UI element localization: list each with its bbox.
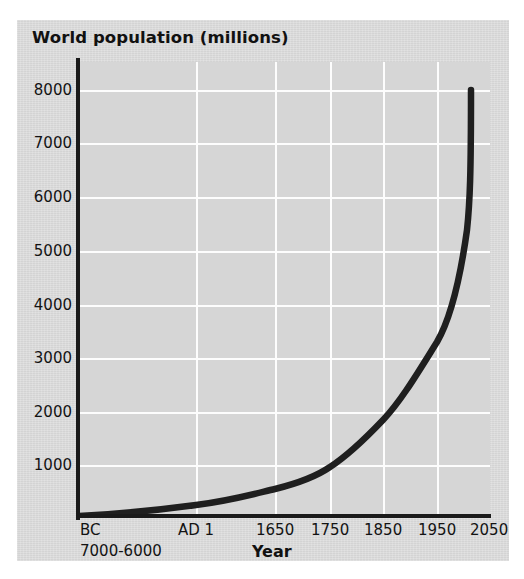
x-axis-title: Year [252, 542, 292, 561]
x-axis-line [76, 514, 491, 518]
x-tick-bc-sublabel: 7000-6000 [80, 542, 162, 560]
population-growth-figure: World population (millions) 8000 7000 60… [0, 0, 524, 579]
population-curve [79, 62, 490, 516]
y-tick-6000: 6000 [12, 188, 72, 206]
y-tick-5000: 5000 [12, 242, 72, 260]
x-tick-1950: 1950 [418, 521, 456, 539]
y-tick-2000: 2000 [12, 403, 72, 421]
x-tick-1650: 1650 [256, 521, 294, 539]
y-tick-7000: 7000 [12, 134, 72, 152]
x-tick-1750: 1750 [311, 521, 349, 539]
y-axis-line [76, 58, 80, 520]
x-tick-1850: 1850 [364, 521, 402, 539]
y-axis-tick-labels: 8000 7000 6000 5000 4000 3000 2000 1000 [8, 0, 72, 579]
y-tick-1000: 1000 [12, 456, 72, 474]
x-tick-bc: BC [80, 521, 101, 539]
y-tick-8000: 8000 [12, 81, 72, 99]
y-tick-4000: 4000 [12, 296, 72, 314]
x-tick-ad1: AD 1 [178, 521, 214, 539]
y-tick-3000: 3000 [12, 349, 72, 367]
x-tick-2050: 2050 [470, 521, 508, 539]
